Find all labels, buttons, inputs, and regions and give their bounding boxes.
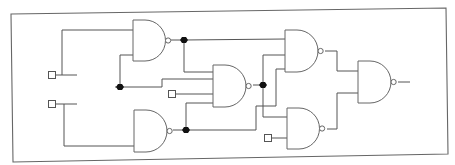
inversion-bubble bbox=[391, 79, 396, 84]
inversion-bubble bbox=[167, 128, 172, 133]
wire-segment-16 bbox=[327, 93, 358, 129]
inversion-bubble bbox=[320, 126, 325, 131]
logic-circuit-diagram bbox=[0, 0, 455, 165]
nand-gate-g4 bbox=[285, 30, 323, 72]
wire-g1-out-to-g3-in1 bbox=[120, 79, 213, 87]
gate-body bbox=[134, 110, 167, 152]
wire-j2-to-g3-in2 bbox=[64, 104, 134, 146]
input-terminal-in1[interactable] bbox=[49, 72, 56, 79]
inversion-bubble bbox=[246, 83, 251, 88]
nand-gate-g3 bbox=[213, 65, 251, 107]
junction-dot-j4 bbox=[182, 127, 190, 133]
wire-g3-out-to-g5-in1 bbox=[186, 103, 213, 130]
junction-dot-j2 bbox=[116, 84, 124, 90]
inversion-bubble bbox=[166, 38, 171, 43]
wire-in2-to-g2-in1 bbox=[62, 30, 133, 75]
gate-body bbox=[287, 108, 320, 149]
nand-gate-g6 bbox=[358, 61, 396, 103]
inversion-bubble bbox=[318, 48, 323, 53]
wire-in3-to-g3-in3 bbox=[171, 39, 285, 40]
nand-gate-g5 bbox=[287, 108, 325, 149]
wire-segment-15 bbox=[325, 51, 358, 71]
input-terminal-in3[interactable] bbox=[169, 91, 176, 98]
gate-body bbox=[133, 20, 165, 61]
wire-g4-out-to-g6-in1 bbox=[263, 55, 285, 85]
gate-body bbox=[285, 30, 318, 72]
nand-gate-g1 bbox=[133, 20, 171, 61]
input-terminal-in2[interactable] bbox=[49, 101, 56, 108]
wire-g1-out-to-g4-in1 bbox=[115, 55, 133, 87]
gate-body bbox=[213, 65, 246, 107]
junction-dot-j3 bbox=[259, 82, 267, 88]
input-terminal-in4[interactable] bbox=[265, 135, 272, 142]
wire-g5-out-to-g6-in2 bbox=[263, 85, 287, 117]
junction-dot-j1 bbox=[180, 37, 188, 43]
wire-g2-out-to-g3-in4 bbox=[184, 40, 213, 72]
gate-body bbox=[358, 61, 391, 103]
nand-gate-g2 bbox=[134, 110, 172, 152]
